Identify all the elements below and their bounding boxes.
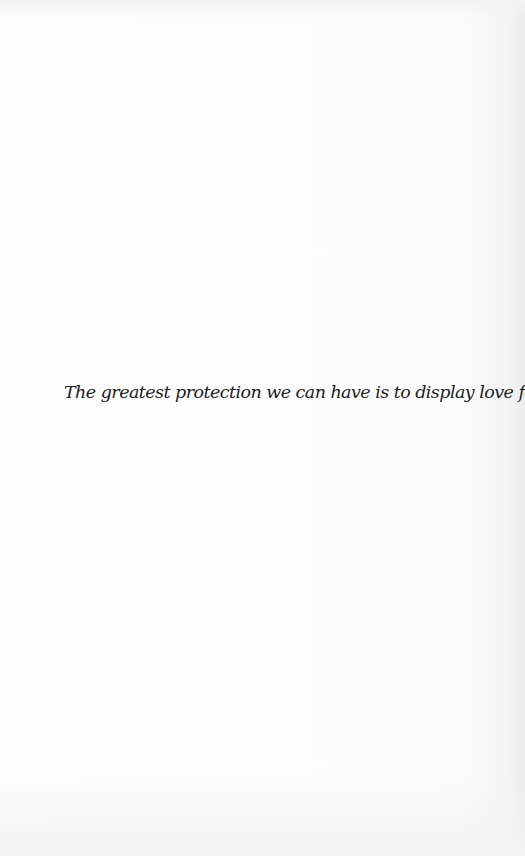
quote-text: The greatest protection we can have is t… (64, 378, 524, 406)
book-page: The greatest protection we can have is t… (0, 0, 525, 856)
page-bottom-shadow (0, 776, 525, 856)
page-top-shadow (0, 0, 525, 20)
